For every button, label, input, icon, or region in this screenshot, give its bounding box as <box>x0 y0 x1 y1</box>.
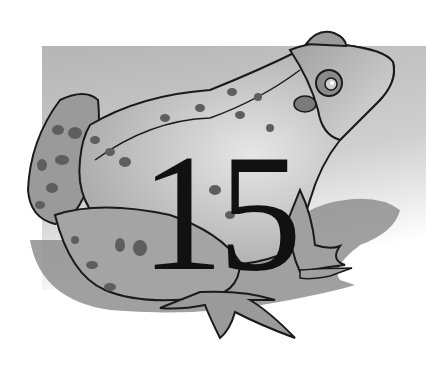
frog-illustration <box>0 0 426 368</box>
chapter-opener-illustration: 15 <box>0 0 426 368</box>
frog-tympanum <box>294 96 316 112</box>
frog-eye-ridge <box>306 32 346 46</box>
eye-highlight <box>330 81 334 85</box>
frog-front-foot <box>300 268 352 279</box>
